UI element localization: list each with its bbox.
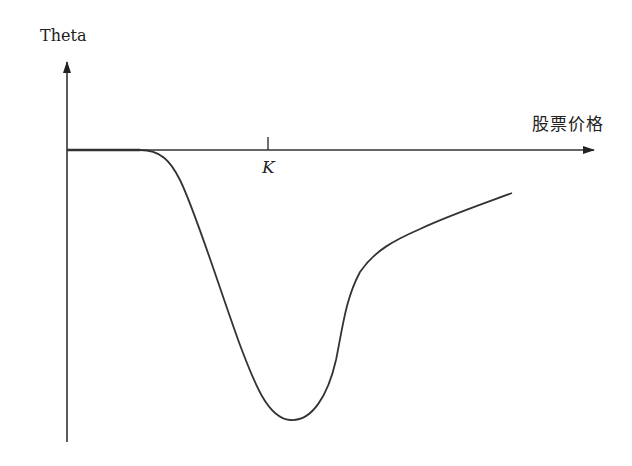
theta-chart (0, 0, 632, 466)
y-axis-label: Theta (40, 26, 86, 45)
k-tick-label: K (262, 157, 275, 177)
x-axis-label: 股票价格 (532, 110, 604, 135)
theta-curve (67, 150, 512, 420)
